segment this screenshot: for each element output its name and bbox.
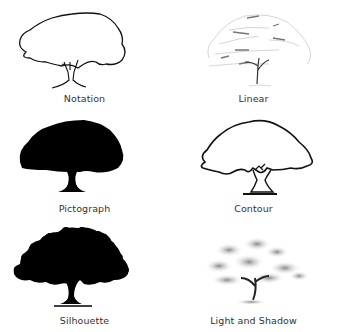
- label-pictograph: Pictograph: [0, 203, 169, 214]
- tree-light-and-shadow: Light and Shadow: [169, 220, 338, 330]
- tree-silhouette: Silhouette: [0, 220, 169, 330]
- label-silhouette: Silhouette: [0, 315, 169, 326]
- label-contour: Contour: [169, 203, 338, 214]
- tree-contour: Contour: [169, 110, 338, 220]
- label-notation: Notation: [0, 93, 169, 104]
- label-linear: Linear: [169, 93, 338, 104]
- tree-notation: Notation: [0, 0, 169, 110]
- tree-pictograph: Pictograph: [0, 110, 169, 220]
- label-light-and-shadow: Light and Shadow: [169, 315, 338, 326]
- tree-linear: Linear: [169, 0, 338, 110]
